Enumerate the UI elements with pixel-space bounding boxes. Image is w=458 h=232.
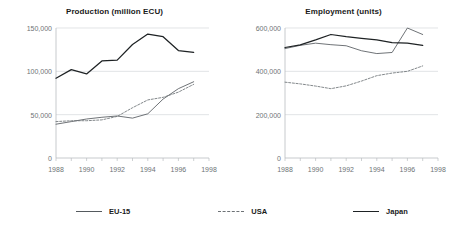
series-lines-employment bbox=[285, 28, 423, 89]
plot-svg-production bbox=[56, 28, 209, 158]
plot-area-production bbox=[56, 28, 209, 158]
y-axis-labels-employment: 0200,000400,000600,000 bbox=[229, 28, 281, 158]
y-tick-label: 0 bbox=[277, 155, 281, 162]
x-tick-label: 1988 bbox=[277, 166, 293, 173]
chart-panel-production: Production (million ECU) 050,000100,0001… bbox=[0, 0, 229, 190]
y-tick-label: 150,000 bbox=[27, 25, 52, 32]
y-axis-labels-production: 050,000100,000150,000 bbox=[0, 28, 52, 158]
axes-employment bbox=[285, 28, 438, 158]
chart-panel-employment: Employment (units) 0200,000400,000600,00… bbox=[229, 0, 458, 190]
legend-key-usa-icon bbox=[218, 211, 244, 212]
chart-title-employment: Employment (units) bbox=[229, 7, 458, 16]
x-tick-label: 1998 bbox=[430, 166, 446, 173]
plot-area-employment bbox=[285, 28, 438, 158]
series-line-usa bbox=[56, 84, 194, 121]
x-tick-label: 1996 bbox=[400, 166, 416, 173]
plot-svg-employment bbox=[285, 28, 438, 158]
legend-item-usa: USA bbox=[218, 207, 267, 216]
x-axis-labels-production: 198819901992199419961998 bbox=[56, 166, 209, 180]
gridlines-employment bbox=[285, 28, 438, 115]
y-tick-label: 200,000 bbox=[256, 111, 281, 118]
axes-production bbox=[56, 28, 209, 158]
chart-panels: Production (million ECU) 050,000100,0001… bbox=[0, 0, 458, 190]
x-tick-label: 1994 bbox=[140, 166, 156, 173]
legend-item-japan: Japan bbox=[353, 207, 408, 216]
x-tick-label: 1994 bbox=[369, 166, 385, 173]
xticks-employment bbox=[285, 158, 438, 161]
y-tick-label: 0 bbox=[48, 155, 52, 162]
x-tick-label: 1990 bbox=[79, 166, 95, 173]
y-tick-label: 600,000 bbox=[256, 25, 281, 32]
x-tick-label: 1988 bbox=[48, 166, 64, 173]
legend-key-eu15-icon bbox=[76, 211, 102, 212]
y-tick-label: 100,000 bbox=[27, 68, 52, 75]
series-lines-production bbox=[56, 34, 194, 124]
legend-label-japan: Japan bbox=[386, 207, 408, 216]
legend-key-japan-icon bbox=[353, 211, 379, 212]
xticks-production bbox=[56, 158, 209, 161]
chart-title-production: Production (million ECU) bbox=[0, 7, 229, 16]
series-line-eu-15 bbox=[56, 82, 194, 124]
x-tick-label: 1992 bbox=[109, 166, 125, 173]
chart-legend: EU-15 USA Japan bbox=[0, 196, 458, 226]
legend-item-eu15: EU-15 bbox=[76, 207, 130, 216]
figure-root: Production (million ECU) 050,000100,0001… bbox=[0, 0, 458, 232]
x-tick-label: 1998 bbox=[201, 166, 217, 173]
x-axis-labels-employment: 198819901992199419961998 bbox=[285, 166, 438, 180]
x-tick-label: 1996 bbox=[171, 166, 187, 173]
series-line-usa bbox=[285, 66, 423, 89]
x-tick-label: 1990 bbox=[308, 166, 324, 173]
y-tick-label: 50,000 bbox=[31, 111, 52, 118]
legend-label-usa: USA bbox=[251, 207, 267, 216]
x-tick-label: 1992 bbox=[338, 166, 354, 173]
series-line-eu-15 bbox=[285, 28, 423, 54]
y-tick-label: 400,000 bbox=[256, 68, 281, 75]
legend-label-eu15: EU-15 bbox=[109, 207, 130, 216]
